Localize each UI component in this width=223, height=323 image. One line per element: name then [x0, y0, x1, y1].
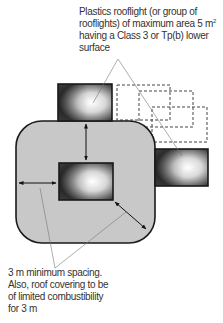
spacing-annotation-line: for 3 m	[8, 303, 128, 315]
spacing-annotation: 3 m minimum spacing. Also, roof covering…	[8, 267, 128, 315]
spacing-annotation-line: Also, roof covering to be	[8, 279, 128, 291]
rooflight-center	[59, 163, 113, 200]
rooflight-annotation: Plastics rooflight (or group of roofligh…	[79, 6, 223, 54]
rooflight-annotation-line: surface	[79, 42, 223, 54]
rooflight-annotation-line: rooflights) of maximum area 5 m2	[79, 18, 223, 30]
spacing-annotation-line: of limited combustibility	[8, 291, 128, 303]
superscript: 2	[213, 18, 216, 24]
rooflight-right	[155, 149, 208, 186]
dashed-rooflight-2	[139, 91, 193, 127]
rooflight-top	[58, 84, 112, 121]
rooflight-annotation-text: rooflights) of maximum area 5 m	[79, 18, 213, 29]
rooflight-annotation-line: Plastics rooflight (or group of	[79, 6, 223, 18]
dashed-rooflight-1	[117, 85, 170, 120]
spacing-annotation-line: 3 m minimum spacing.	[8, 267, 128, 279]
dashed-rooflight-3	[152, 107, 207, 142]
rooflight-annotation-line: having a Class 3 or Tp(b) lower	[79, 30, 223, 42]
